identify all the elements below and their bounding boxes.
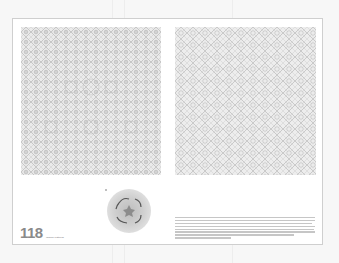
page-number: 118 xyxy=(20,224,43,241)
page-spread: 118 Islamic Patterns Caption text (illeg… xyxy=(12,18,323,245)
right-geometric-pattern xyxy=(175,27,316,175)
caption-block: Caption text (illegible at screenshot re… xyxy=(175,217,315,240)
rosette-icon xyxy=(107,189,151,233)
circular-medallion xyxy=(107,189,151,233)
page-label: Islamic Patterns xyxy=(46,236,64,239)
caption-text: Caption text (illegible at screenshot re… xyxy=(175,217,212,219)
left-geometric-pattern xyxy=(21,27,161,175)
